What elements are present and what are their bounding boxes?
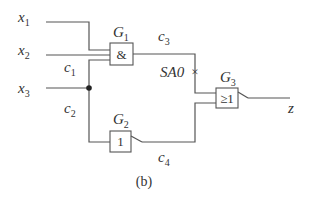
logic-circuit-diagram: & 1 ≥1 × SA0 x1 x2 x3 G1 G2 G3 c1 c2 c3 … <box>0 0 310 202</box>
label-c2: c2 <box>64 100 76 119</box>
gate-g3: ≥1 <box>216 88 248 108</box>
label-c1: c1 <box>64 59 76 78</box>
fault-marker-icon: × <box>191 64 198 79</box>
fault-label: SA0 <box>160 64 185 80</box>
wire-c4 <box>142 103 216 142</box>
label-g2: G2 <box>113 111 129 130</box>
wire-x1 <box>46 22 110 50</box>
label-g1: G1 <box>113 24 129 43</box>
label-x3: x3 <box>17 80 30 99</box>
label-g3: G3 <box>220 69 236 88</box>
gate-g3-symbol: ≥1 <box>220 91 234 106</box>
label-z: z <box>287 100 294 116</box>
wire-c1 <box>89 60 110 88</box>
gate-g2-symbol: 1 <box>117 134 124 149</box>
gate-g1: & <box>110 43 133 65</box>
label-c4: c4 <box>158 149 170 168</box>
wire-c2 <box>89 88 110 142</box>
gate-g2: 1 <box>110 131 142 152</box>
gate-g1-symbol: & <box>116 47 126 62</box>
label-x1: x1 <box>17 9 30 28</box>
gate-g3-negation-icon <box>238 92 248 98</box>
gate-g2-negation-icon <box>131 136 142 142</box>
junction-dot <box>86 85 92 91</box>
label-c3: c3 <box>158 28 170 47</box>
label-x2: x2 <box>17 42 30 61</box>
figure-caption: (b) <box>136 174 153 190</box>
